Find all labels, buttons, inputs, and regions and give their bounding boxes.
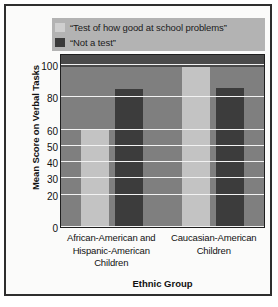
plot-area	[60, 54, 265, 228]
legend-entry-test: “Test of how good at school problems”	[55, 20, 265, 35]
legend-swatch-light-gray	[55, 23, 65, 32]
bar-series-container	[61, 55, 264, 227]
chart-legend: “Test of how good at school problems” “N…	[52, 18, 265, 51]
x-axis-label-line: Children	[163, 245, 266, 258]
y-tick-label-20: 20	[47, 190, 58, 201]
y-tick-label-100: 100	[41, 61, 58, 72]
x-axis-label-line: Children	[60, 257, 163, 270]
x-axis-group-label-1: African-American andHispanic-AmericanChi…	[60, 232, 163, 270]
bar-group2-series1	[182, 65, 210, 227]
y-tick-label-40: 40	[47, 158, 58, 169]
x-axis-group-labels: African-American andHispanic-AmericanChi…	[60, 232, 265, 270]
chart-figure: “Test of how good at school problems” “N…	[4, 4, 272, 296]
legend-entry-not-a-test: “Not a test”	[55, 35, 265, 50]
legend-label-test: “Test of how good at school problems”	[70, 22, 227, 33]
y-axis-tick-labels: 0203040506080100	[32, 54, 58, 228]
x-axis-title: Ethnic Group	[60, 278, 265, 289]
y-tick-label-50: 50	[47, 142, 58, 153]
x-axis-label-line: Hispanic-American	[60, 245, 163, 258]
x-axis-group-label-2: Caucasian-AmericanChildren	[163, 232, 266, 270]
y-tick-label-0: 0	[52, 223, 58, 234]
bar-group1-series1	[81, 130, 109, 227]
bar-group1-series2	[115, 89, 143, 227]
legend-label-not-a-test: “Not a test”	[70, 37, 116, 48]
y-tick-label-30: 30	[47, 174, 58, 185]
x-axis-label-line: Caucasian-American	[163, 232, 266, 245]
bar-group2-series2	[216, 88, 244, 227]
y-tick-label-80: 80	[47, 93, 58, 104]
y-tick-label-60: 60	[47, 125, 58, 136]
legend-swatch-dark-gray	[55, 38, 65, 47]
x-axis-label-line: African-American and	[60, 232, 163, 245]
